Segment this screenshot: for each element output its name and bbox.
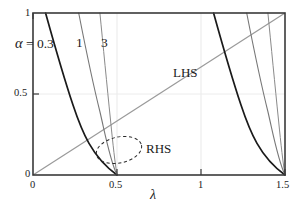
plot-svg [0,0,298,209]
rhs-ellipse-marker [94,133,144,168]
xtick-label-0.5: 0.5 [109,180,122,191]
rhs-annotation-label: RHS [146,142,171,155]
lhs-annotation-label: LHS [173,66,198,79]
alpha-symbol: α [15,35,23,51]
xtick-label-1.5: 1.5 [276,180,289,191]
alpha-value: = 0.3 [23,36,54,51]
alpha-parameter-label: α = 0.3 [15,36,54,51]
ytick-label-1: 1 [25,8,30,19]
xtick-label-0: 0 [30,180,35,191]
xtick-label-1: 1 [198,180,203,191]
ytick-label-0: 0 [25,169,30,180]
chart-figure: α = 0.3 1 3 LHS RHS 1 0.5 0 0 0.5 1 1.5 … [0,0,298,209]
ytick-label-0.5: 0.5 [14,88,27,99]
xaxis-title: λ [150,188,156,202]
curve-label-1: 1 [76,36,83,50]
curve-label-3: 3 [101,36,108,50]
